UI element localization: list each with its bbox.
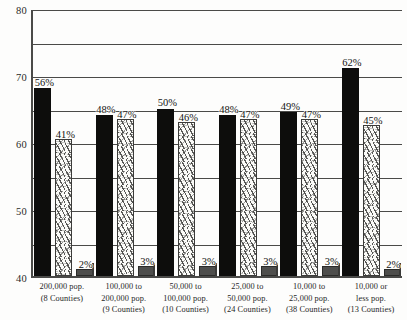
x-axis-label-line: (38 Counties) xyxy=(278,304,340,316)
bar-group: 50%46%3% xyxy=(156,10,218,276)
x-axis-label-line: 200,000 pop. xyxy=(31,281,93,293)
bar-slot: 2% xyxy=(384,269,401,276)
x-axis-category-label: 50,000 to100,000 pop.(10 Counties) xyxy=(155,281,217,316)
bar-slot: 41% xyxy=(55,139,72,276)
bar[interactable]: 50% xyxy=(157,109,174,277)
bar-value-label: 47% xyxy=(240,109,259,120)
x-axis-label-line: less pop. xyxy=(340,293,402,305)
y-axis-tick-80: 80 xyxy=(16,5,27,16)
bar[interactable]: 41% xyxy=(55,139,72,276)
bar-group: 62%45%2% xyxy=(341,10,403,276)
bar-slot: 3% xyxy=(261,266,278,276)
bar-value-label: 47% xyxy=(302,109,321,120)
bar-groups: 56%41%2%48%47%3%50%46%3%48%47%3%49%47%3%… xyxy=(33,10,402,276)
x-axis-category-label: 200,000 pop.(8 Counties) xyxy=(31,281,93,316)
bar-value-label: 50% xyxy=(158,97,177,108)
y-axis-tick-60: 60 xyxy=(16,139,27,150)
bar-value-label: 2% xyxy=(79,259,93,270)
bar-value-label: 3% xyxy=(325,256,339,267)
bar[interactable]: 3% xyxy=(138,266,155,276)
bar-value-label: 48% xyxy=(219,104,238,115)
x-axis-label-line: 25,000 pop. xyxy=(278,293,340,305)
x-axis-label-line: 200,000 pop. xyxy=(93,293,155,305)
bar[interactable]: 2% xyxy=(76,269,93,276)
bar-value-label: 3% xyxy=(140,256,154,267)
bar[interactable]: 47% xyxy=(117,119,134,276)
x-axis-labels: 200,000 pop.(8 Counties)100,000 to200,00… xyxy=(31,281,402,316)
x-axis-label-line: (8 Counties) xyxy=(31,293,93,305)
x-axis-label-line: 10,000 to xyxy=(278,281,340,293)
x-axis-label-line: 100,000 pop. xyxy=(155,293,217,305)
bar[interactable]: 47% xyxy=(240,119,257,276)
bar-value-label: 47% xyxy=(117,109,136,120)
bar[interactable]: 62% xyxy=(342,68,359,276)
bar-group: 49%47%3% xyxy=(279,10,341,276)
bar[interactable]: 45% xyxy=(363,125,380,276)
bar-value-label: 49% xyxy=(281,101,300,112)
bar-value-label: 3% xyxy=(202,256,216,267)
x-axis-label-line: (10 Counties) xyxy=(155,304,217,316)
x-axis-label-line: 50,000 to xyxy=(155,281,217,293)
x-axis-category-label: 25,000 to50,000 pop.(24 Counties) xyxy=(216,281,278,316)
bar[interactable]: 49% xyxy=(280,112,297,276)
x-axis-label-line: 25,000 to xyxy=(216,281,278,293)
bar-slot: 48% xyxy=(96,115,113,276)
y-axis-tick-50: 50 xyxy=(16,206,27,217)
bar-value-label: 3% xyxy=(263,256,277,267)
bar[interactable]: 56% xyxy=(34,88,51,276)
bar-slot: 47% xyxy=(240,119,257,276)
bar-value-label: 56% xyxy=(35,77,54,88)
bar-slot: 3% xyxy=(138,266,155,276)
bar[interactable]: 46% xyxy=(178,122,195,276)
bar-slot: 2% xyxy=(76,269,93,276)
bar-slot: 46% xyxy=(178,122,195,276)
bar-slot: 47% xyxy=(117,119,134,276)
x-axis-label-line: 50,000 pop. xyxy=(216,293,278,305)
bar[interactable]: 3% xyxy=(322,266,339,276)
x-axis-label-line: 100,000 to xyxy=(93,281,155,293)
bar-group: 48%47%3% xyxy=(218,10,280,276)
x-axis-label-line: (13 Counties) xyxy=(340,304,402,316)
bar-slot: 62% xyxy=(342,68,359,276)
bar[interactable]: 3% xyxy=(199,266,216,276)
x-axis-category-label: 100,000 to200,000 pop.(9 Counties) xyxy=(93,281,155,316)
bar[interactable]: 48% xyxy=(96,115,113,276)
bar[interactable]: 48% xyxy=(219,115,236,276)
y-axis-tick-70: 70 xyxy=(16,72,27,83)
bar-slot: 45% xyxy=(363,125,380,276)
bar[interactable]: 2% xyxy=(384,269,401,276)
bar-slot: 3% xyxy=(199,266,216,276)
x-axis-label-line: 10,000 or xyxy=(340,281,402,293)
bar-slot: 50% xyxy=(157,109,174,277)
bar-group: 48%47%3% xyxy=(95,10,157,276)
plot-area: 01020304050607080 56%41%2%48%47%3%50%46%… xyxy=(31,10,402,278)
bar-slot: 48% xyxy=(219,115,236,276)
bar-value-label: 62% xyxy=(342,57,361,68)
bar[interactable]: 47% xyxy=(301,119,318,276)
bar-chart: 01020304050607080 56%41%2%48%47%3%50%46%… xyxy=(0,0,407,320)
x-axis-label-line: (9 Counties) xyxy=(93,304,155,316)
bar-value-label: 48% xyxy=(96,104,115,115)
bar-slot: 49% xyxy=(280,112,297,276)
bar-value-label: 2% xyxy=(386,259,400,270)
bar-value-label: 41% xyxy=(56,129,75,140)
x-axis-category-label: 10,000 to25,000 pop.(38 Counties) xyxy=(278,281,340,316)
bar-value-label: 45% xyxy=(363,115,382,126)
bar-slot: 47% xyxy=(301,119,318,276)
x-axis-category-label: 10,000 orless pop.(13 Counties) xyxy=(340,281,402,316)
bar-slot: 3% xyxy=(322,266,339,276)
bar-group: 56%41%2% xyxy=(33,10,95,276)
bar[interactable]: 3% xyxy=(261,266,278,276)
y-axis-tick-40: 40 xyxy=(16,273,27,284)
bar-slot: 56% xyxy=(34,88,51,276)
x-axis-label-line: (24 Counties) xyxy=(216,304,278,316)
bar-value-label: 46% xyxy=(179,112,198,123)
